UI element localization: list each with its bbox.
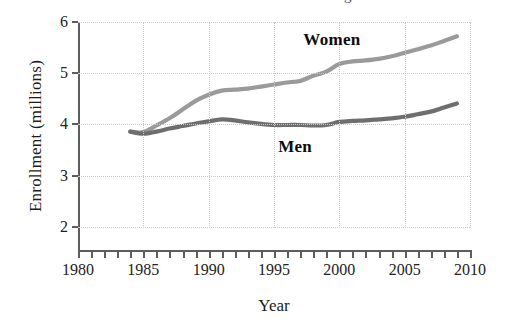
x-tick-label: 1990 (179, 262, 239, 278)
x-tick-label: 1985 (113, 262, 173, 278)
x-tick (78, 250, 80, 258)
y-tick-label: 4 (46, 116, 68, 132)
y-tick (72, 175, 78, 177)
x-tick (392, 250, 394, 258)
x-tick (117, 250, 119, 258)
x-tick-label: 1980 (48, 262, 108, 278)
cropped-title-remnant: g (344, 0, 384, 3)
gridline-vertical (274, 22, 275, 228)
y-tick (72, 123, 78, 125)
y-tick-label: 6 (46, 14, 68, 30)
x-tick (444, 250, 446, 258)
x-tick (274, 250, 276, 258)
y-tick (72, 21, 78, 23)
x-tick (300, 250, 302, 258)
x-tick (431, 250, 433, 258)
x-tick (130, 250, 132, 258)
x-axis-title: Year (78, 296, 470, 316)
x-tick (379, 250, 381, 258)
x-tick (169, 250, 171, 258)
x-tick (261, 250, 263, 258)
x-tick (104, 250, 106, 258)
x-tick (405, 250, 407, 258)
x-tick (143, 250, 145, 258)
gridline-vertical (209, 22, 210, 228)
gridline-vertical (405, 22, 406, 228)
gridline-vertical (470, 22, 471, 228)
y-tick (72, 72, 78, 74)
y-tick-label: 3 (46, 168, 68, 184)
x-tick (352, 250, 354, 258)
gridline-vertical (143, 22, 144, 228)
x-tick (248, 250, 250, 258)
x-tick (339, 250, 341, 258)
y-tick-label: 2 (46, 219, 68, 235)
y-tick-label: 5 (46, 65, 68, 81)
x-tick-label: 2000 (309, 262, 369, 278)
x-tick (183, 250, 185, 258)
x-tick (365, 250, 367, 258)
series-label-men: Men (278, 137, 312, 157)
x-tick-label: 2005 (375, 262, 435, 278)
x-tick (209, 250, 211, 258)
x-tick (156, 250, 158, 258)
series-label-women: Women (303, 30, 360, 50)
y-axis-line (78, 22, 80, 252)
x-tick (457, 250, 459, 258)
chart-figure: g Enrollment (millions) Year 23456 19801… (0, 0, 507, 332)
series-line-men (130, 103, 457, 133)
x-tick-label: 1995 (244, 262, 304, 278)
y-tick (72, 226, 78, 228)
x-tick (91, 250, 93, 258)
gridline-vertical (339, 22, 340, 228)
x-tick (196, 250, 198, 258)
x-tick (470, 250, 472, 258)
x-tick (313, 250, 315, 258)
y-axis-title: Enrollment (millions) (26, 31, 46, 241)
x-tick (222, 250, 224, 258)
x-tick (287, 250, 289, 258)
plot-area: 23456 1980198519901995200020052010 Women… (78, 22, 470, 252)
x-tick (326, 250, 328, 258)
x-tick (418, 250, 420, 258)
x-tick-label: 2010 (440, 262, 500, 278)
x-tick (235, 250, 237, 258)
